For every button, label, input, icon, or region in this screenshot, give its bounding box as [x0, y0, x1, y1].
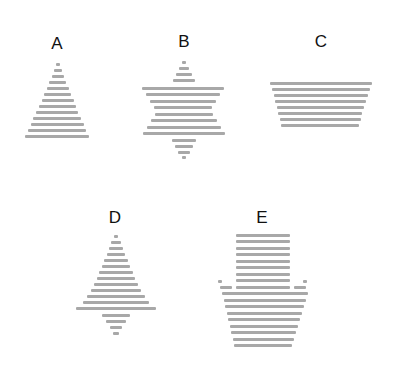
stripe	[228, 318, 300, 321]
stripe	[220, 286, 232, 289]
stripe	[303, 280, 307, 283]
stripe	[236, 234, 290, 237]
stripe	[236, 247, 290, 250]
stripe	[234, 344, 292, 347]
stripe	[233, 338, 294, 341]
stripe	[236, 260, 290, 263]
figure-label-e: E	[256, 209, 267, 226]
stripe	[222, 292, 308, 295]
stripe	[231, 331, 296, 334]
stripe	[236, 273, 290, 276]
stripe	[236, 279, 290, 282]
stripe	[218, 280, 222, 283]
stripe	[224, 299, 306, 302]
stripe	[236, 240, 290, 243]
stripe	[230, 325, 298, 328]
stripe	[294, 286, 306, 289]
figure-e: E	[0, 0, 397, 387]
stripe	[225, 305, 304, 308]
stripe	[236, 286, 290, 289]
stripe	[227, 312, 302, 315]
stripe	[236, 253, 290, 256]
stripe	[236, 266, 290, 269]
